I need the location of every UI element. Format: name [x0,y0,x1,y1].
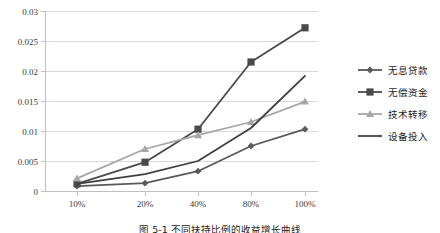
legend-marker-diamond [367,67,374,74]
y-tick-label: 0.005 [18,157,39,167]
y-tick-labels: 0.03 0.025 0.02 0.015 0.01 0.005 0 [18,7,39,197]
y-tick-label: 0.03 [22,7,38,17]
chart-legend: 无息贷款无偿资金技术转移设备投入 [358,65,428,142]
y-tick-label: 0.025 [18,37,39,47]
y-tick-label: 0.02 [22,67,38,77]
legend-label: 设备投入 [388,131,428,142]
y-tick-label: 0.01 [22,127,38,137]
legend-item-3[interactable]: 技术转移 [358,109,428,120]
y-axis-ticks [41,12,45,192]
x-tick-label: 20% [137,199,154,209]
marker-square [141,159,148,166]
x-tick-label: 80% [243,199,260,209]
x-tick-labels: 10% 20% 40% 80% 100% [69,199,316,209]
legend-item-2[interactable]: 无偿资金 [358,87,428,98]
y-tick-label: 0.015 [18,97,39,107]
legend-marker-square [366,88,373,95]
marker-square [247,58,254,65]
legend-label: 无息贷款 [388,65,428,76]
legend-item-1[interactable]: 无息贷款 [358,65,428,76]
marker-square [301,24,308,31]
x-tick-label: 40% [190,199,207,209]
figure-caption: 图 5-1 不同扶持比例的收益增长曲线 [0,223,440,233]
y-tick-label: 0 [34,187,39,197]
legend-label: 技术转移 [388,109,428,120]
legend-label: 无偿资金 [388,87,428,98]
x-tick-label: 10% [69,199,86,209]
legend-item-4[interactable]: 设备投入 [358,131,428,142]
line-chart-canvas: 0.03 0.025 0.02 0.015 0.01 0.005 0 10% 2… [0,0,440,233]
chart-figure: 0.03 0.025 0.02 0.015 0.01 0.005 0 10% 2… [0,0,440,233]
x-tick-label: 100% [295,199,317,209]
